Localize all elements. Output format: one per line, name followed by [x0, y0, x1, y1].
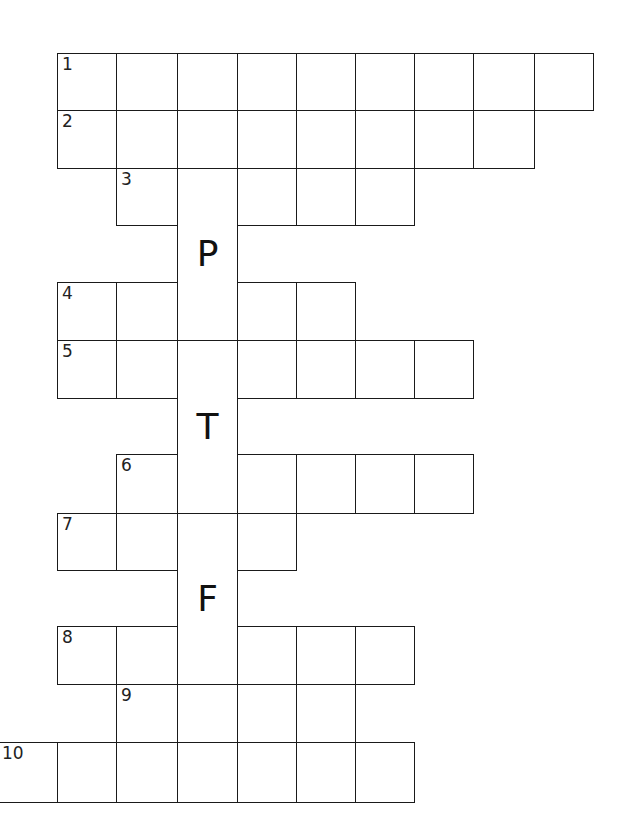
crossword-cell[interactable]	[116, 626, 178, 685]
crossword-cell[interactable]	[355, 53, 415, 111]
crossword-cell[interactable]	[237, 110, 297, 169]
crossword-cell[interactable]: 5	[57, 340, 117, 399]
crossword-cell[interactable]	[414, 53, 474, 111]
crossword-cell[interactable]	[296, 53, 356, 111]
crossword-cell[interactable]: 3	[116, 168, 178, 226]
crossword-cell[interactable]	[473, 53, 535, 111]
crossword-cell[interactable]	[237, 626, 297, 685]
crossword-cell[interactable]	[116, 110, 178, 169]
crossword-cell[interactable]	[177, 626, 238, 685]
given-letter-cell: T	[177, 398, 238, 455]
crossword-cell[interactable]	[296, 684, 356, 743]
crossword-cell[interactable]	[414, 454, 474, 514]
crossword-cell[interactable]: 4	[57, 282, 117, 341]
crossword-cell[interactable]	[57, 742, 117, 803]
crossword-cell[interactable]	[237, 168, 297, 226]
crossword-cell[interactable]	[296, 454, 356, 514]
crossword-cell[interactable]	[116, 742, 178, 803]
crossword-cell[interactable]: 10	[0, 742, 58, 803]
crossword-cell[interactable]	[237, 742, 297, 803]
crossword-cell[interactable]	[177, 110, 238, 169]
crossword-cell[interactable]: 2	[57, 110, 117, 169]
crossword-cell[interactable]	[296, 340, 356, 399]
clue-number: 9	[121, 687, 132, 704]
crossword-cell[interactable]	[414, 340, 474, 399]
clue-number: 5	[62, 343, 73, 360]
crossword-cell[interactable]: 9	[116, 684, 178, 743]
crossword-cell[interactable]	[237, 513, 297, 571]
clue-number: 8	[62, 629, 73, 646]
clue-number: 3	[121, 171, 132, 188]
crossword-cell[interactable]	[177, 53, 238, 111]
crossword-cell[interactable]	[296, 742, 356, 803]
crossword-cell[interactable]	[355, 454, 415, 514]
crossword-cell[interactable]: 7	[57, 513, 117, 571]
crossword-cell[interactable]	[237, 454, 297, 514]
crossword-cell[interactable]	[116, 53, 178, 111]
crossword-cell[interactable]	[296, 168, 356, 226]
crossword-cell[interactable]	[237, 53, 297, 111]
clue-number: 4	[62, 285, 73, 302]
crossword-cell[interactable]	[116, 340, 178, 399]
crossword-cell[interactable]	[296, 110, 356, 169]
crossword-cell[interactable]	[116, 282, 178, 341]
crossword-cell[interactable]	[177, 454, 238, 514]
crossword-cell[interactable]	[355, 168, 415, 226]
crossword-cell[interactable]	[237, 684, 297, 743]
clue-number: 6	[121, 457, 132, 474]
crossword-cell[interactable]	[355, 340, 415, 399]
given-letter-cell: F	[177, 570, 238, 627]
crossword-cell[interactable]	[355, 110, 415, 169]
crossword-cell[interactable]	[177, 513, 238, 571]
crossword-cell[interactable]: 8	[57, 626, 117, 685]
crossword-board: 12345678910PTF	[0, 0, 624, 819]
crossword-cell[interactable]	[116, 513, 178, 571]
crossword-cell[interactable]	[237, 282, 297, 341]
crossword-cell[interactable]	[177, 168, 238, 226]
crossword-cell[interactable]	[237, 340, 297, 399]
clue-number: 10	[2, 745, 24, 762]
crossword-cell[interactable]	[296, 282, 356, 341]
crossword-cell[interactable]	[177, 684, 238, 743]
crossword-cell[interactable]	[177, 742, 238, 803]
crossword-cell[interactable]	[355, 626, 415, 685]
crossword-cell[interactable]	[355, 742, 415, 803]
crossword-cell[interactable]	[473, 110, 535, 169]
crossword-cell[interactable]: 6	[116, 454, 178, 514]
crossword-cell[interactable]	[177, 340, 238, 399]
clue-number: 1	[62, 56, 73, 73]
clue-number: 2	[62, 113, 73, 130]
crossword-cell[interactable]	[296, 626, 356, 685]
crossword-cell[interactable]: 1	[57, 53, 117, 111]
crossword-cell[interactable]	[414, 110, 474, 169]
crossword-cell[interactable]	[534, 53, 594, 111]
crossword-cell[interactable]	[177, 282, 238, 341]
given-letter-cell: P	[177, 225, 238, 283]
clue-number: 7	[62, 516, 73, 533]
